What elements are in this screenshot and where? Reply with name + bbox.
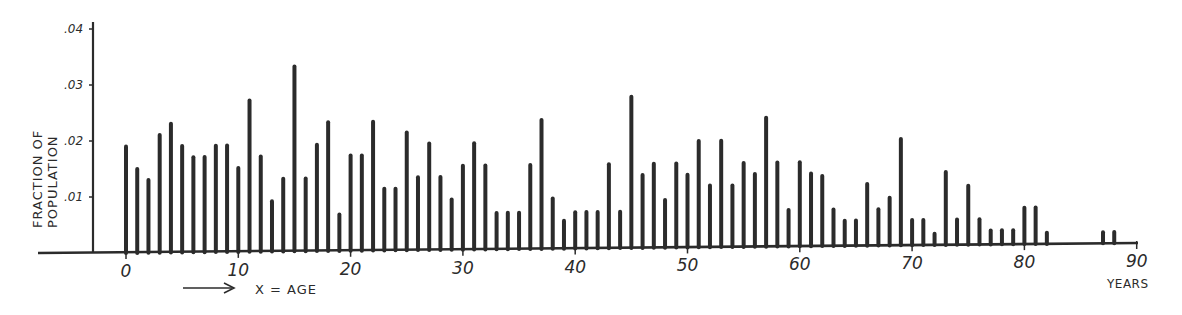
y-tick-label: .04 (64, 22, 83, 36)
x-tick-label: 30 (452, 258, 474, 278)
y-tick-label: .03 (64, 78, 83, 92)
y-axis-title-line-1: FRACTION OF (30, 130, 45, 228)
y-axis-title: FRACTION OF POPULATION (30, 130, 60, 228)
x-tick-label: 0 (121, 261, 132, 281)
x-tick-label: 90 (1126, 251, 1148, 271)
x-unit-label: YEARS (1106, 277, 1149, 291)
x-tick-label: 60 (789, 254, 811, 274)
x-tick-label: 80 (1014, 252, 1036, 272)
x-tick-label: 50 (677, 255, 699, 275)
y-axis-title-line-2: POPULATION (45, 135, 60, 228)
y-tick-label: .02 (64, 134, 83, 148)
x-tick-label: 20 (340, 259, 362, 279)
bars-group (126, 67, 1114, 253)
x-axis-title-text: X = AGE (255, 282, 317, 297)
y-ticks-group: .01.02.03.04 (64, 22, 93, 204)
x-tick-label: 40 (564, 257, 586, 277)
x-tick-label: 70 (901, 253, 923, 273)
population-age-chart: .01.02.03.04 0102030405060708090 FRACTIO… (0, 0, 1182, 315)
y-tick-label: .01 (64, 190, 83, 204)
x-tick-label: 10 (227, 260, 249, 280)
x-axis-title: X = AGE (183, 282, 317, 297)
